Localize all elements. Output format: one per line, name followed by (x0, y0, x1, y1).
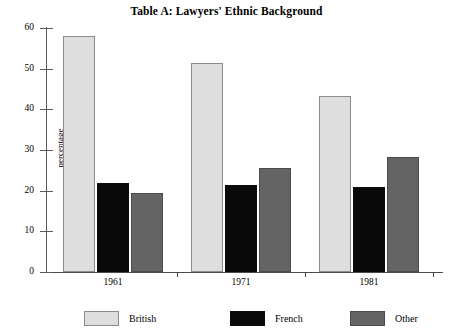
legend-swatch-french (230, 311, 265, 326)
legend-item-other: Other (350, 308, 418, 328)
y-tick-label: 60 (0, 23, 34, 33)
legend-item-british: British (84, 308, 156, 328)
x-tick-label-1971: 1971 (211, 277, 271, 288)
legend-swatch-other (350, 311, 385, 326)
y-tick-label: 0 (0, 267, 34, 277)
bar-british-1981 (319, 96, 351, 272)
legend-label-other: Other (395, 313, 418, 324)
y-tick-label: 40 (0, 104, 34, 114)
y-tick-label: 30 (0, 145, 34, 155)
y-tick-label: 10 (0, 226, 34, 236)
bar-other-1971 (259, 168, 291, 272)
chart-legend: BritishFrenchOther (0, 308, 453, 330)
y-tick-label: 50 (0, 64, 34, 74)
bar-british-1961 (63, 36, 95, 272)
x-tick-label-1961: 1961 (83, 277, 143, 288)
x-tick-mark (305, 272, 306, 277)
y-tick-mark (40, 272, 53, 273)
chart-figure: Table A: Lawyers' Ethnic Background 0102… (0, 0, 453, 336)
legend-label-british: British (129, 313, 156, 324)
bar-british-1971 (191, 63, 223, 272)
chart-title: Table A: Lawyers' Ethnic Background (0, 5, 453, 17)
legend-swatch-british (84, 311, 119, 326)
bar-french-1971 (225, 185, 257, 272)
x-tick-mark (177, 272, 178, 277)
bar-french-1961 (97, 183, 129, 272)
bar-french-1981 (353, 187, 385, 272)
x-tick-label-1981: 1981 (339, 277, 399, 288)
y-tick-label: 20 (0, 186, 34, 196)
x-tick-mark (433, 272, 434, 277)
bars-layer (46, 28, 443, 272)
bar-other-1961 (131, 193, 163, 272)
legend-item-french: French (230, 308, 303, 328)
legend-label-french: French (275, 313, 303, 324)
x-axis-line (46, 272, 443, 273)
bar-other-1981 (387, 157, 419, 272)
